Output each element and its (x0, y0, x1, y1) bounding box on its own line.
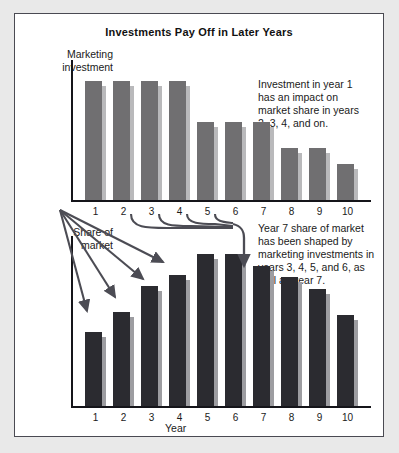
bar-shadow (270, 127, 274, 200)
tick-label-3: 3 (141, 206, 162, 217)
marketing-bar-group (73, 60, 371, 200)
bar-fill (337, 315, 354, 406)
bar-fill (281, 277, 298, 406)
bar-fill (141, 286, 158, 406)
bar-shadow (102, 86, 106, 200)
bar-fill (85, 81, 102, 200)
tick-label-10: 10 (337, 412, 358, 423)
marketing-investment-chart: 12345678910 (71, 60, 371, 202)
share-of-market-chart: 12345678910 (71, 236, 371, 408)
tick-label-3: 3 (141, 412, 162, 423)
bar-shadow (242, 127, 246, 200)
bar-year-9 (309, 148, 330, 200)
bar-year-5 (197, 254, 218, 406)
bar-year-2 (113, 312, 134, 406)
tick-label-1: 1 (85, 206, 106, 217)
bar-fill (225, 254, 242, 406)
tick-label-10: 10 (337, 206, 358, 217)
bar-fill (197, 122, 214, 200)
figure-panel: Investments Pay Off in Later Years Marke… (14, 13, 384, 437)
bar-shadow (298, 153, 302, 200)
bar-year-10 (337, 164, 358, 200)
bar-fill (85, 332, 102, 406)
tick-label-2: 2 (113, 412, 134, 423)
bar-fill (253, 266, 270, 406)
x-axis-share (71, 406, 371, 408)
bar-year-7 (253, 266, 274, 406)
bar-year-9 (309, 289, 330, 406)
bar-fill (337, 164, 354, 200)
bar-fill (169, 81, 186, 200)
bar-shadow (186, 280, 190, 406)
bar-fill (141, 81, 158, 200)
bar-shadow (158, 291, 162, 406)
bar-shadow (270, 271, 274, 406)
bar-shadow (158, 86, 162, 200)
bar-year-2 (113, 81, 134, 200)
bar-year-1 (85, 332, 106, 406)
bar-fill (309, 148, 326, 200)
tick-label-8: 8 (281, 412, 302, 423)
bar-year-6 (225, 122, 246, 200)
bar-fill (197, 254, 214, 406)
tick-label-8: 8 (281, 206, 302, 217)
tick-label-7: 7 (253, 412, 274, 423)
bar-shadow (354, 320, 358, 406)
bar-fill (225, 122, 242, 200)
bar-fill (113, 81, 130, 200)
bar-shadow (298, 282, 302, 406)
share-bar-group (73, 236, 371, 406)
bar-year-4 (169, 275, 190, 406)
tick-label-9: 9 (309, 412, 330, 423)
bar-year-3 (141, 286, 162, 406)
bar-year-8 (281, 148, 302, 200)
tick-label-5: 5 (197, 412, 218, 423)
bar-fill (169, 275, 186, 406)
bar-fill (309, 289, 326, 406)
bar-fill (281, 148, 298, 200)
bar-shadow (186, 86, 190, 200)
bar-year-4 (169, 81, 190, 200)
tick-label-4: 4 (169, 206, 190, 217)
bar-shadow (326, 294, 330, 406)
bar-shadow (354, 169, 358, 200)
tick-label-1: 1 (85, 412, 106, 423)
bar-year-8 (281, 277, 302, 406)
tick-label-2: 2 (113, 206, 134, 217)
tick-label-7: 7 (253, 206, 274, 217)
bar-year-1 (85, 81, 106, 200)
bar-shadow (130, 317, 134, 406)
tick-label-5: 5 (197, 206, 218, 217)
bar-shadow (130, 86, 134, 200)
page-title: Investments Pay Off in Later Years (15, 26, 383, 38)
bar-shadow (214, 127, 218, 200)
bar-year-3 (141, 81, 162, 200)
bar-year-10 (337, 315, 358, 406)
bar-shadow (102, 337, 106, 406)
tick-label-9: 9 (309, 206, 330, 217)
x-axis-marketing (71, 200, 371, 202)
x-axis-title: Year (165, 422, 186, 434)
bar-shadow (326, 153, 330, 200)
tick-label-6: 6 (225, 412, 246, 423)
bar-year-6 (225, 254, 246, 406)
bar-fill (113, 312, 130, 406)
bar-year-5 (197, 122, 218, 200)
bar-shadow (242, 259, 246, 406)
tick-label-6: 6 (225, 206, 246, 217)
figure-page: Investments Pay Off in Later Years Marke… (0, 0, 399, 453)
bar-shadow (214, 259, 218, 406)
bar-year-7 (253, 122, 274, 200)
bar-fill (253, 122, 270, 200)
